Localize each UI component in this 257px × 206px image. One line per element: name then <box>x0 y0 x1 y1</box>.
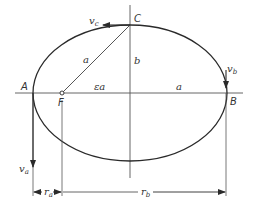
dimension-ra-label: ra <box>44 186 53 199</box>
velocity-a-label: va <box>19 163 29 176</box>
focus-f-label: F <box>58 97 64 108</box>
velocity-b-label: vb <box>227 63 238 76</box>
focus-point-marker <box>60 91 64 95</box>
segment-b-label: b <box>134 55 140 66</box>
point-b-label: B <box>230 96 237 107</box>
segment-ea-label: εa <box>94 81 105 92</box>
dimension-rb-label: rb <box>141 186 151 199</box>
segment-a-horizontal-label: a <box>176 81 182 92</box>
segment-a-slant-label: a <box>83 54 89 65</box>
point-c-label: C <box>134 13 141 24</box>
point-a-label: A <box>20 81 28 92</box>
velocity-c-label: vc <box>89 15 99 28</box>
orbit-ellipse-diagram: A B C F a b a εa vc vb va ra rb <box>0 0 257 206</box>
